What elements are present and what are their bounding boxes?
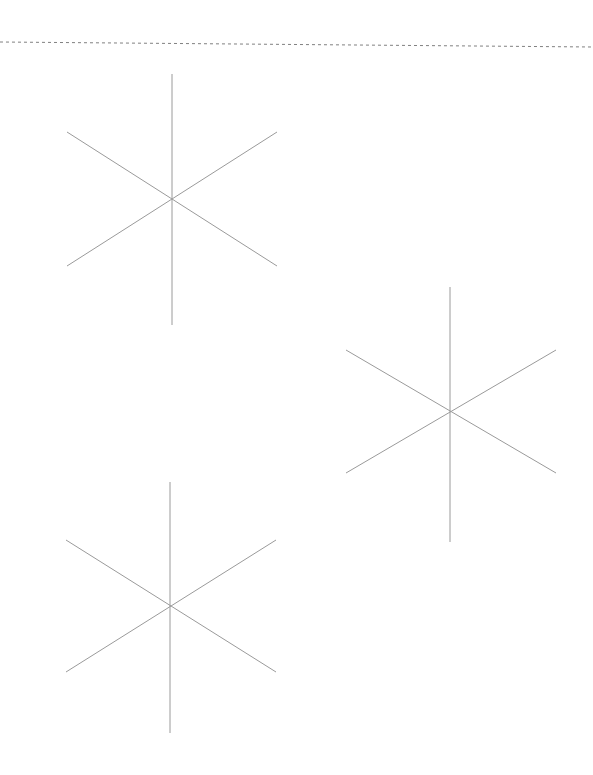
- scanned-page: Scanned sheet with six-pointed star figu…: [0, 0, 593, 775]
- drawing-canvas: [0, 0, 593, 775]
- page-background: [0, 0, 593, 775]
